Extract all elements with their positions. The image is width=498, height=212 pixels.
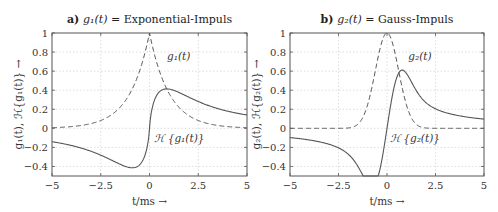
- figure: −5−2.502.5510.80.60.40.20−0.2−0.4a) g₁(t…: [0, 0, 498, 212]
- x-tick-label: −2.5: [89, 180, 113, 191]
- x-tick-label: 0: [146, 180, 152, 191]
- y-tick-label: 0: [280, 123, 286, 134]
- y-tick-label: −0.4: [24, 161, 48, 172]
- x-tick-label: −5: [45, 180, 60, 191]
- panel-b-gauss-impulse: −5−2.502.5510.80.60.40.20−0.2−0.4b) g₂(t…: [250, 13, 487, 207]
- label-hilbert: ℋ {g₁(t)}: [154, 132, 204, 145]
- x-tick-label: 0: [384, 180, 390, 191]
- x-tick-label: 5: [244, 180, 250, 191]
- y-tick-label: 0.6: [270, 66, 286, 77]
- y-tick-label: −0.2: [262, 142, 286, 153]
- label-hilbert: ℋ {g₂(t)}: [390, 132, 440, 145]
- y-tick-label: 1: [280, 28, 286, 39]
- y-tick-label: 0: [42, 123, 48, 134]
- panel-a-exponential-impulse: −5−2.502.5510.80.60.40.20−0.2−0.4a) g₁(t…: [12, 13, 250, 207]
- y-tick-label: −0.4: [262, 161, 286, 172]
- panel-title: b) g₂(t) = Gauss-Impuls: [321, 13, 454, 26]
- y-tick-label: 0.8: [32, 47, 48, 58]
- x-tick-label: 5: [481, 180, 487, 191]
- y-tick-label: 0.4: [270, 85, 286, 96]
- label-signal: g₁(t): [167, 50, 190, 62]
- panel-title: a) g₁(t) = Exponential-Impuls: [67, 13, 233, 26]
- x-tick-label: −2.5: [326, 180, 350, 191]
- y-axis-label: g₂(t), ℋ{g₂(t)} →: [250, 59, 263, 149]
- grid-lines: [52, 33, 247, 176]
- y-tick-label: 0.8: [270, 47, 286, 58]
- x-tick-label: 2.5: [190, 180, 206, 191]
- y-tick-label: 1: [42, 28, 48, 39]
- x-tick-label: −5: [283, 180, 298, 191]
- y-tick-label: 0.2: [270, 104, 286, 115]
- y-tick-label: 0.6: [32, 66, 48, 77]
- label-signal: g₂(t): [408, 50, 431, 62]
- y-tick-label: 0.2: [32, 104, 48, 115]
- x-axis-label: t/ms →: [132, 195, 167, 207]
- y-tick-label: 0.4: [32, 85, 48, 96]
- y-axis-label: g₁(t), ℋ{g₁(t)} →: [12, 59, 25, 149]
- x-axis-label: t/ms →: [369, 195, 404, 207]
- y-tick-label: −0.2: [24, 142, 48, 153]
- x-tick-label: 2.5: [428, 180, 444, 191]
- grid-lines: [290, 33, 484, 176]
